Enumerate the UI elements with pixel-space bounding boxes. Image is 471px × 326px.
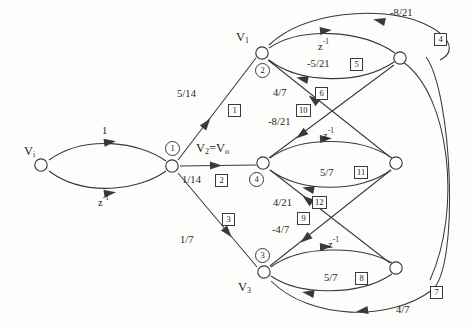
- gain-label-r1-v3-outer: 4/7: [396, 305, 410, 316]
- node-label-v3: V3: [238, 281, 251, 294]
- gain-label-v3-r3-upper: z-1: [328, 237, 339, 250]
- branch-box-8: 8: [355, 272, 368, 285]
- gain-label-r1-v2-diagonal: -8/21: [268, 117, 291, 128]
- node-r1[interactable]: [394, 52, 406, 64]
- gain-label-v1-r1-upper: z-1: [318, 39, 329, 52]
- branch-box-3: 3: [222, 213, 235, 226]
- node-r2[interactable]: [390, 157, 402, 169]
- branch-box-1: 1: [228, 104, 241, 117]
- gain-label-r1-v1-lower: -5/21: [307, 59, 330, 70]
- branch-box-6: 6: [315, 87, 328, 100]
- edge-outer-right-sweep: [403, 62, 448, 280]
- node-v3[interactable]: [258, 266, 270, 278]
- node-r3[interactable]: [390, 262, 402, 274]
- node-label-vi: Vi: [24, 145, 35, 158]
- node-index-4: 4: [249, 172, 264, 187]
- edge-v3-r3-upper: [271, 250, 392, 267]
- gain-label-n1-v3: 1/7: [180, 235, 194, 246]
- edge-r2-v1-diagonal: [268, 60, 390, 157]
- gain-label-vi-n1-upper: 1: [102, 126, 107, 137]
- node-vi[interactable]: [35, 159, 47, 171]
- gain-label-n1-v1: 5/14: [177, 89, 196, 100]
- edge-vi-n1-upper: [49, 143, 166, 161]
- branch-box-12: 12: [312, 196, 327, 209]
- branch-box-4: 4: [434, 33, 447, 46]
- node-v1[interactable]: [256, 47, 268, 59]
- node-index-3: 3: [255, 248, 270, 263]
- node-index-1: 1: [165, 141, 180, 156]
- gain-label-vi-n1-lower: z-1: [98, 195, 109, 208]
- branch-box-9: 9: [297, 212, 310, 225]
- gain-label-r2-v2-lower: 5/7: [320, 168, 334, 179]
- gain-label-r3-v3-lower: 5/7: [324, 273, 338, 284]
- node-1[interactable]: [166, 160, 178, 172]
- branch-box-7: 7: [430, 286, 443, 299]
- signal-flow-graph-figure: Vi V1 V2=Vo V3 1 2 3 4 1 z-1 5/14 1/14 1…: [0, 0, 471, 326]
- gain-label-n1-v2: 1/14: [182, 175, 201, 186]
- edge-v1-r1-upper: [269, 34, 395, 53]
- gain-label-r3-v2-diagonal: 4/21: [273, 198, 292, 209]
- node-v2[interactable]: [257, 157, 269, 169]
- arrowhead-r1-v1-outer-return: [372, 15, 385, 25]
- arrowhead-r1-v3-outer-return: [356, 306, 369, 316]
- branch-box-5: 5: [350, 58, 363, 71]
- node-index-2: 2: [255, 63, 270, 78]
- gain-label-v2-r2-upper: z-1: [323, 128, 334, 141]
- edge-n1-v3: [178, 173, 257, 267]
- flowgraph-canvas: [0, 0, 471, 326]
- gain-label-r2-v3-diagonal: -4/7: [272, 225, 289, 236]
- node-label-v2: V2=Vo: [196, 142, 229, 155]
- node-label-v1: V1: [236, 31, 249, 44]
- branch-box-11: 11: [354, 166, 368, 179]
- branch-box-2: 2: [215, 174, 228, 187]
- gain-label-r1-v1-outer: -8/21: [390, 8, 413, 19]
- edge-vi-n1-lower: [49, 171, 166, 188]
- gain-label-r2-v1-diagonal: 4/7: [273, 88, 287, 99]
- branch-box-10: 10: [296, 104, 311, 117]
- arrowhead-n1-v2: [210, 161, 222, 169]
- arrowhead-vi-n1-upper: [104, 137, 117, 147]
